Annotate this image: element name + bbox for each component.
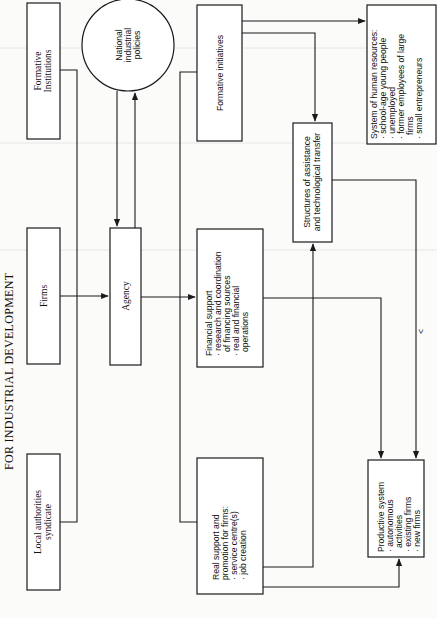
svg-text:Institutions: Institutions [43,49,53,92]
svg-text:policies: policies [132,31,142,60]
chevron-annotation: < [416,329,426,334]
connector-realsupport-productive [263,559,399,587]
svg-text:Formative initiatives: Formative initiatives [215,35,225,111]
industrial-development-diagram: FOR INDUSTRIAL DEVELOPMENT < Formative I… [0,0,437,618]
svg-text:Formative: Formative [33,51,43,90]
connector-initiatives-structures [242,33,315,121]
node-national-policies: National industrial policies [82,0,174,91]
diagram-title: FOR INDUSTRIAL DEVELOPMENT [2,272,16,470]
svg-text:<: < [416,329,426,334]
node-local-authorities: Local authorities syndicate [27,454,60,590]
svg-text:FOR INDUSTRIAL DEVELOPMENT: FOR INDUSTRIAL DEVELOPMENT [2,272,16,470]
connector-realsupport-structures [263,244,313,567]
svg-text:· small entrepreneurs: · small entrepreneurs [414,58,424,139]
svg-text:· new firms: · new firms [412,510,422,552]
svg-text:Structures of assistance: Structures of assistance [302,136,312,228]
connector-financial-productive [263,298,381,458]
node-firms: Firms [27,228,60,364]
node-real-support: Real support and promotion for firms: · … [197,458,263,594]
node-agency: Agency [110,228,141,365]
node-human-resources: System of human resources: · school-age … [367,5,436,144]
svg-text:operations: operations [240,312,250,352]
node-productive-system: Productive system · autonomous activitie… [368,460,424,557]
svg-text:· job creation: · job creation [238,530,248,580]
node-formative-institutions: Formative Institutions [27,3,60,139]
svg-text:Firms: Firms [39,285,49,307]
svg-text:syndicate: syndicate [43,504,53,540]
svg-text:Agency: Agency [121,281,131,311]
node-structures: Structures of assistance and technologic… [293,123,332,242]
svg-text:and technological transfer: and technological transfer [312,133,322,232]
node-financial-support: Financial support · research and coordin… [197,229,263,367]
connector-structures-productive [332,180,416,458]
node-formative-initiatives: Formative initiatives [197,5,242,141]
svg-text:Local authorities: Local authorities [33,490,43,554]
